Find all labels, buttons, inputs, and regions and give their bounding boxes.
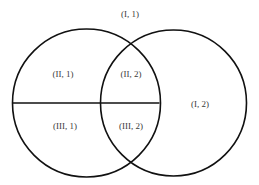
label-outside: (I, 1) [121,9,139,19]
label-left-bottom: (III, 1) [53,121,77,131]
label-overlap-top: (II, 2) [121,69,142,79]
label-right-only: (I, 2) [191,99,209,109]
label-overlap-bottom: (III, 2) [119,121,143,131]
venn-diagram: (I, 1) (II, 1) (II, 2) (III, 1) (III, 2)… [0,0,259,185]
background [0,0,259,185]
label-left-top: (II, 1) [53,69,74,79]
